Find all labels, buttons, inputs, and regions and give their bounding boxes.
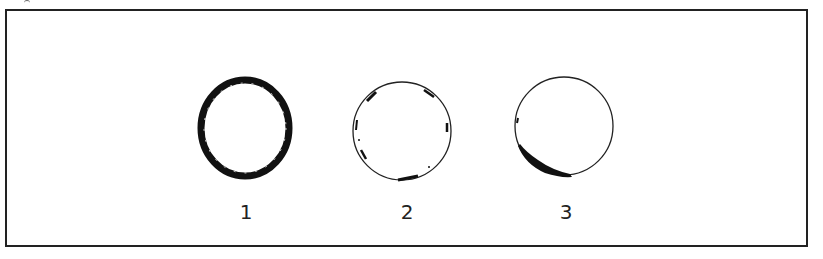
circle-3-label: 3 (551, 200, 581, 224)
circle-2-label: 2 (392, 200, 422, 224)
circle-1 (201, 80, 289, 176)
circle-1-label: 1 (231, 200, 261, 224)
circle-2 (353, 82, 451, 180)
circle-3 (515, 77, 613, 177)
